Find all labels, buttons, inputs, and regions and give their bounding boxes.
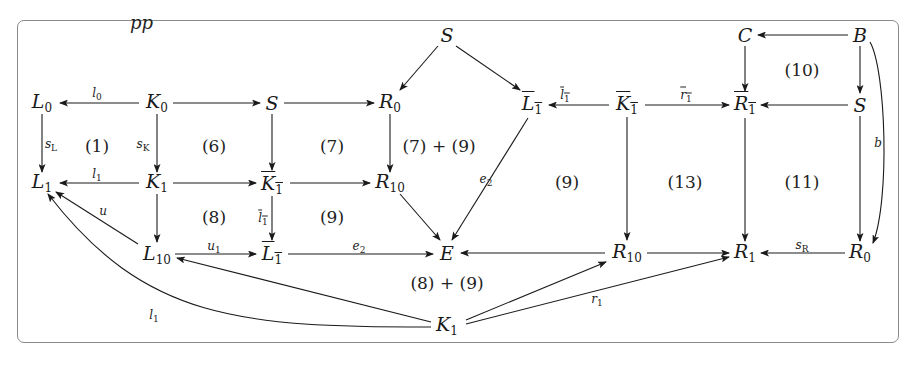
edge-label-l1_curve: l1: [149, 309, 159, 324]
node-k0: K0: [146, 92, 168, 114]
edge-label-rbar1: r1: [680, 89, 691, 104]
region-label: (9): [320, 209, 344, 226]
node-kbar1_a: K1: [616, 94, 638, 116]
region-label: (7): [320, 138, 344, 155]
node-s_top: S: [440, 26, 453, 45]
node-l0: L0: [32, 92, 52, 114]
node-k1_b: K1: [436, 315, 458, 337]
edge-label-r1: r1: [591, 293, 602, 308]
edge-label-sr: sR: [796, 239, 809, 254]
node-b: B: [853, 26, 867, 45]
node-kbar1_b: K1: [261, 174, 283, 196]
edge-label-l0: l0: [92, 87, 102, 102]
node-r1: R1: [734, 242, 756, 264]
node-lbar1_a: L1: [522, 94, 542, 116]
region-label: (6): [202, 138, 226, 155]
node-r10_b: R10: [612, 242, 642, 264]
edge-label-l1_top: l1: [92, 168, 102, 183]
edge-label-u1: u1: [207, 240, 220, 255]
region-label: (8): [202, 209, 226, 226]
edge-label-b: b: [874, 137, 882, 149]
node-rbar1: R1: [734, 94, 756, 116]
arrow-r10_a-to-e: [400, 194, 440, 240]
node-k1_a: K1: [146, 172, 168, 194]
edge-label-sk: sK: [137, 138, 150, 153]
node-s_a: S: [265, 94, 278, 113]
node-r10_a: R10: [375, 172, 405, 194]
region-label: (10): [785, 62, 820, 79]
region-label: (9): [555, 174, 579, 191]
node-r0_b: R0: [849, 242, 871, 264]
edge-label-u: u: [99, 205, 107, 217]
arrow-s_top-to-r0_a: [400, 46, 438, 90]
node-c: C: [738, 26, 753, 45]
edge-label-e2_d: e2: [480, 173, 493, 188]
arrow-k1_b-to-r10_b: [466, 262, 606, 320]
arrow-k1_b-to-l10: [177, 258, 431, 322]
edge-label-lbar1_v: l1: [258, 212, 268, 227]
arrow-s_top-to-lbar1_a: [456, 46, 520, 90]
node-l1: L1: [32, 172, 52, 194]
arrow-k1_b-to-r1: [466, 257, 729, 324]
region-label: (1): [85, 138, 109, 155]
edge-label-sl: sL: [45, 138, 57, 153]
edge-label-e2_h: e2: [353, 240, 366, 255]
node-r0_a: R0: [379, 92, 401, 114]
node-lbar1_b: L1: [262, 244, 282, 266]
node-l10: L10: [143, 244, 171, 266]
region-label: (11): [785, 174, 820, 191]
region-label: (7) + (9): [402, 138, 475, 155]
region-label: (8) + (9): [410, 275, 483, 292]
region-label: (13): [668, 174, 703, 191]
edge-label-lbar1_h: l1: [560, 89, 570, 104]
node-e: E: [440, 244, 454, 263]
node-s_b: S: [853, 96, 866, 115]
